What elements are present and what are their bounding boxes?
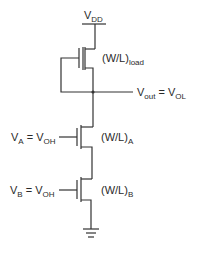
svg-text:VA = VOH: VA = VOH — [11, 131, 56, 146]
ground-icon — [83, 229, 99, 237]
load-transistor-label: (W/L)load — [102, 52, 144, 67]
transistor-b-label: (W/L)B — [101, 184, 133, 199]
transistor-a-label: (W/L)A — [101, 131, 134, 146]
svg-text:Vout = VOL: Vout = VOL — [137, 86, 187, 101]
transistor-b — [59, 177, 92, 229]
circuit-diagram: VDD (W/L)load Vout = VOL VA = VOH (W/L)A — [0, 0, 201, 256]
input-b-label: VB = VOH — [10, 184, 55, 199]
vdd-label: VDD — [84, 9, 103, 24]
transistor-a — [59, 125, 93, 179]
svg-text:VB = VOH: VB = VOH — [10, 184, 55, 199]
input-a-label: VA = VOH — [11, 131, 56, 146]
svg-text:(W/L)B: (W/L)B — [101, 184, 133, 199]
svg-text:(W/L)A: (W/L)A — [101, 131, 134, 146]
load-transistor — [61, 47, 95, 92]
output-label: Vout = VOL — [137, 86, 187, 101]
svg-text:(W/L)load: (W/L)load — [102, 52, 144, 67]
svg-text:VDD: VDD — [84, 9, 103, 24]
